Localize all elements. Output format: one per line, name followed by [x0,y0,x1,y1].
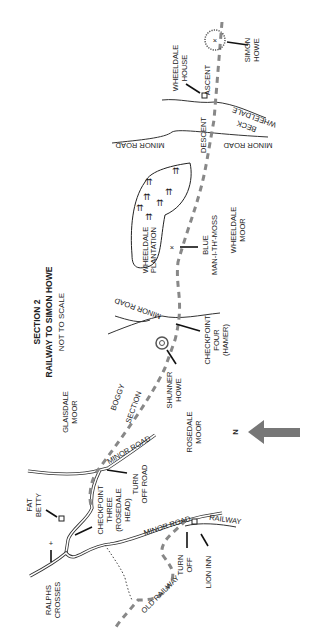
wheeldale-house-arrow-icon [186,84,200,93]
label-four: FOUR [212,329,221,351]
fat-betty-marker [59,516,64,521]
label-section: SECTION [124,390,144,424]
label-descent: DESCENT [199,117,208,153]
label-off-road: OFF ROAD [140,464,149,503]
map-title: SECTION 2 [32,299,42,344]
road-to-rosedale-head [66,470,100,553]
svg-text:⇈: ⇈ [145,177,153,187]
label-shunner: SHUNNER [165,371,174,409]
north-label: N [231,429,240,434]
label-howe: HOWE [252,38,261,61]
svg-text:⇈: ⇈ [136,203,144,213]
svg-text:⇈: ⇈ [172,166,180,176]
scale-note: NOT TO SCALE [57,293,66,351]
label-wheeldale-moor-1: WHEELDALE [229,207,238,253]
svg-text:⇈: ⇈ [165,187,173,197]
label-head: HEAD) [123,498,132,522]
label-rosedale-paren: (ROSEDALE [114,488,123,531]
label-simon: SIMON [243,38,252,63]
label-crosses: CROSSES [53,582,62,619]
label-betty: BETTY [34,493,43,517]
label-checkpoint-four: CHECKPOINT [203,315,212,365]
label-checkpoint-three: CHECKPOINT [96,485,105,535]
label-glaisdale: GLAISDALE [61,391,70,433]
label-lion-inn: LION INN [204,556,213,589]
map-subtitle: RAILWAY TO SIMON HOWE [44,266,54,377]
svg-text:⇈: ⇈ [156,198,164,208]
north-arrow-icon: N [231,420,300,444]
footpath-dotted [105,545,132,600]
label-turn-off-2: OFF [185,557,194,572]
cairn-icon: × [213,36,217,45]
label-wheeldale-moor-2: MOOR [238,218,247,242]
label-minor-road-top-left: MINOR ROAD [115,141,164,150]
label-fat: FAT [25,498,34,512]
label-minor-road-low: MINOR ROAD [105,433,152,465]
svg-text:⇈: ⇈ [143,192,151,202]
label-three: THREE [105,497,114,522]
label-rosedale-moor: MOOR [194,420,203,444]
label-glaisdale-moor: MOOR [70,400,79,424]
lion-inn-marker [192,519,197,524]
label-ascent: ASCENT [203,64,212,95]
fat-betty-arrow-icon [46,510,57,517]
checkpoint-four-arrow-icon [176,324,200,331]
label-man-i-th-moss: MAN-I-TH'-MOSS [210,215,219,275]
lion-inn-arrow-icon [201,534,208,546]
svg-text:⇈: ⇈ [145,212,153,222]
label-hamer: (HAMER) [221,323,230,356]
label-ralphs: RALPHS [44,585,53,615]
turn-off-road-arrow-icon [107,470,127,473]
map-title-block: SECTION 2 RAILWAY TO SIMON HOWE NOT TO S… [32,266,66,377]
label-minor-road-top-right: MINOR ROAD [223,141,272,150]
label-turn: TURN [131,474,140,495]
label-plantation: PLANTATION [149,227,158,273]
label-old-railway: OLD RAILWAY [139,573,181,615]
label-turn-off-1: TURN [176,555,185,576]
label-house: HOUSE [180,55,189,82]
label-blue: BLUE [201,235,210,255]
label-boggy: BOGGY [109,383,127,412]
route-map: SECTION 2 RAILWAY TO SIMON HOWE NOT TO S… [0,0,315,641]
label-rosedale: ROSEDALE [185,412,194,453]
blue-man-marker-icon: × [170,243,174,252]
label-wheeldale: WHEELDALE [171,45,180,91]
shunner-howe-marker [156,337,168,349]
cross-marker-icon: + [49,539,54,548]
label-shunner-howe: HOWE [174,378,183,401]
